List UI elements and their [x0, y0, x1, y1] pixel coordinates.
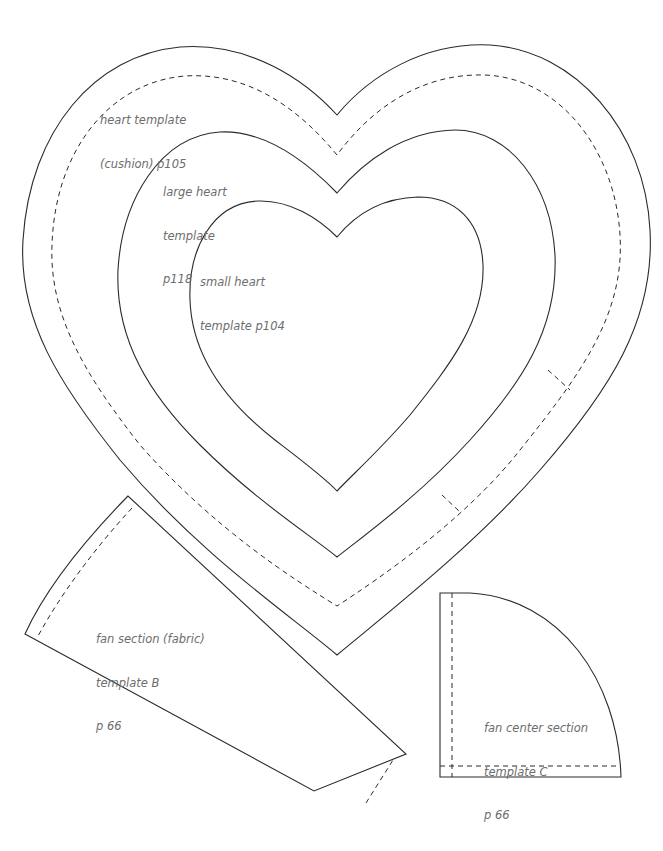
fan-center-label-line-1: fan center section: [484, 721, 588, 736]
fan-section-cut-line: [25, 496, 406, 791]
large-heart-label-line-2: template: [163, 229, 227, 244]
fan-center-label: fan center section template C p 66: [484, 692, 588, 851]
fan-center-label-line-2: template C: [484, 765, 588, 780]
heart-cushion-label-line-1: heart template: [100, 113, 186, 128]
fan-section-label: fan section (fabric) template B p 66: [96, 603, 205, 763]
seam-notch-lower: [442, 495, 460, 512]
template-sheet: heart template (cushion) p105 large hear…: [0, 0, 663, 851]
large-heart-label-line-1: large heart: [163, 185, 227, 200]
small-heart-label-line-2: template p104: [200, 319, 285, 334]
fan-section-label-line-2: template B: [96, 676, 205, 691]
fan-section-end-seam: [366, 760, 393, 803]
fan-center-label-line-3: p 66: [484, 808, 588, 823]
small-heart-label-line-1: small heart: [200, 275, 285, 290]
fan-section-label-line-3: p 66: [96, 719, 205, 734]
small-heart-label: small heart template p104: [200, 246, 285, 362]
fan-section-label-line-1: fan section (fabric): [96, 632, 205, 647]
seam-notch-upper: [548, 370, 570, 390]
